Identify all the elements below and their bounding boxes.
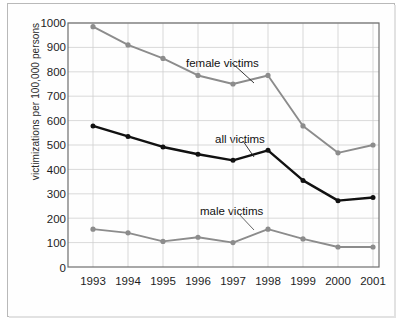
data-point [90, 227, 95, 232]
data-point [230, 240, 235, 245]
data-point [161, 144, 166, 149]
data-point [300, 123, 305, 128]
data-point [160, 56, 165, 61]
data-point [125, 230, 130, 235]
leader-line-all [243, 141, 254, 157]
data-point [336, 198, 341, 203]
data-point [91, 123, 96, 128]
data-point [195, 73, 200, 78]
data-point [266, 148, 271, 153]
data-point [160, 239, 165, 244]
annotation-leader-lines [232, 63, 254, 230]
data-point [265, 73, 270, 78]
grid-lines [68, 23, 379, 267]
data-point [126, 134, 131, 139]
chart-plot [0, 0, 404, 325]
data-point [195, 235, 200, 240]
data-point [265, 227, 270, 232]
data-point [335, 244, 340, 249]
data-point [90, 24, 95, 29]
data-point [196, 152, 201, 157]
data-point [230, 81, 235, 86]
data-point [371, 195, 376, 200]
chart-figure: victimizations per 100,000 persons 1000 … [0, 0, 404, 325]
leader-line-female [232, 63, 254, 83]
data-point [300, 236, 305, 241]
data-point [370, 142, 375, 147]
data-point [301, 178, 306, 183]
data-point [125, 42, 130, 47]
data-point [335, 150, 340, 155]
data-point [231, 158, 236, 163]
leader-line-male [237, 212, 254, 230]
data-point [370, 244, 375, 249]
